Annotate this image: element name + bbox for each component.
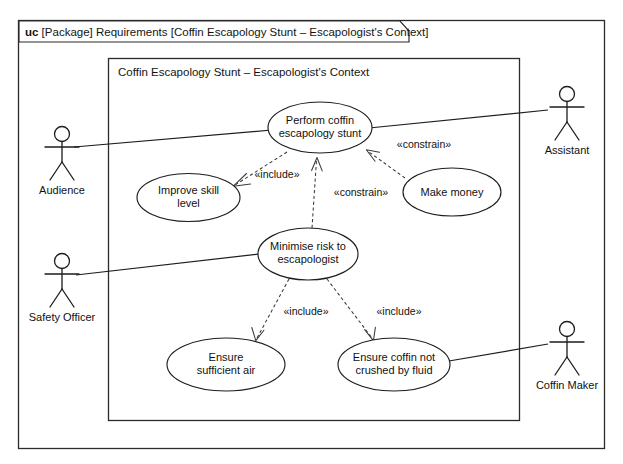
use-case-label-line1: Improve skill bbox=[158, 184, 219, 196]
use-case-ensure-sufficient-air[interactable]: Ensure sufficient air bbox=[167, 338, 285, 391]
actor-head-icon bbox=[560, 87, 575, 102]
association-audience-perform bbox=[74, 130, 272, 147]
use-case-label-line2: level bbox=[177, 197, 200, 209]
actor-label: Coffin Maker bbox=[536, 379, 598, 391]
actor-label: Audience bbox=[39, 184, 85, 196]
relationship-include-perform-improve: «include» bbox=[233, 152, 299, 186]
stereotype-label-include-1: «include» bbox=[255, 168, 300, 180]
use-case-label-line1: Ensure coffin not bbox=[353, 351, 435, 363]
actor-left-leg-icon bbox=[50, 289, 62, 307]
actor-coffin-maker[interactable]: Coffin Maker bbox=[536, 322, 598, 392]
actor-right-leg-icon bbox=[62, 289, 74, 307]
frame-header-keyword: uc bbox=[25, 26, 39, 38]
association-assistant-perform bbox=[369, 110, 548, 128]
frame-header-text: uc [Package] Requirements [Coffin Escapo… bbox=[25, 26, 428, 38]
actor-label: Safety Officer bbox=[29, 311, 96, 323]
actor-safety-officer[interactable]: Safety Officer bbox=[29, 254, 96, 324]
use-case-diagram-canvas: uc [Package] Requirements [Coffin Escapo… bbox=[0, 0, 623, 464]
use-case-label-line1: Make money bbox=[421, 186, 484, 198]
relationship-constrain-minimise-perform: «constrain» bbox=[312, 158, 389, 229]
actor-right-leg-icon bbox=[62, 162, 74, 180]
use-case-label-line2: escapology stunt bbox=[279, 127, 362, 139]
stereotype-label-include-3: «include» bbox=[377, 305, 422, 317]
relationship-include-minimise-air: «include» bbox=[252, 279, 329, 341]
stereotype-label-constrain-2: «constrain» bbox=[397, 138, 451, 150]
use-case-improve-skill-level[interactable]: Improve skill level bbox=[137, 174, 240, 222]
actor-right-leg-icon bbox=[567, 357, 579, 375]
use-case-label-line2: crushed by fluid bbox=[355, 364, 432, 376]
use-case-ensure-coffin-not-crushed-by-fluid[interactable]: Ensure coffin not crushed by fluid bbox=[338, 338, 450, 391]
actor-label: Assistant bbox=[545, 144, 590, 156]
actor-left-leg-icon bbox=[555, 122, 567, 140]
actor-head-icon bbox=[560, 322, 575, 337]
association-coffinmaker-crush bbox=[443, 344, 548, 362]
use-case-perform-coffin-escapology-stunt[interactable]: Perform coffin escapology stunt bbox=[268, 102, 372, 153]
use-case-label-line1: Ensure bbox=[209, 351, 244, 363]
subject-frame-label: Coffin Escapology Stunt – Escapologist's… bbox=[118, 66, 370, 78]
relationship-include-minimise-crush: «include» bbox=[327, 279, 422, 341]
actor-audience[interactable]: Audience bbox=[39, 127, 85, 197]
use-case-label-line2: sufficient air bbox=[197, 364, 256, 376]
stereotype-label-constrain-1: «constrain» bbox=[334, 186, 388, 198]
use-case-minimise-risk-to-escapologist[interactable]: Minimise risk to escapologist bbox=[258, 228, 358, 280]
use-case-make-money[interactable]: Make money bbox=[403, 168, 501, 216]
actor-head-icon bbox=[55, 127, 70, 142]
actor-head-icon bbox=[55, 254, 70, 269]
actor-right-leg-icon bbox=[567, 122, 579, 140]
association-safety-minimise bbox=[76, 253, 268, 275]
use-case-label-line1: Minimise risk to bbox=[270, 240, 346, 252]
use-case-label-line2: escapologist bbox=[277, 253, 338, 265]
actor-left-leg-icon bbox=[50, 162, 62, 180]
diagram-svg: uc [Package] Requirements [Coffin Escapo… bbox=[0, 0, 623, 464]
actor-assistant[interactable]: Assistant bbox=[545, 87, 590, 157]
use-case-label-line1: Perform coffin bbox=[286, 114, 354, 126]
stereotype-label-include-2: «include» bbox=[284, 305, 329, 317]
actor-left-leg-icon bbox=[555, 357, 567, 375]
frame-header-title: [Package] Requirements [Coffin Escapolog… bbox=[38, 26, 428, 38]
